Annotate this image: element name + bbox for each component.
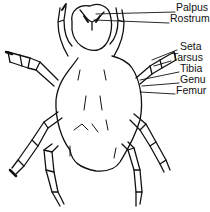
leg-fourth-right bbox=[122, 142, 142, 206]
leg-fourth-left bbox=[44, 144, 64, 206]
leg-third-right bbox=[130, 114, 170, 172]
leg-front-right bbox=[110, 8, 124, 56]
leg-front-left bbox=[58, 6, 72, 56]
leg-third-left bbox=[12, 112, 62, 174]
label-femur: Femur bbox=[176, 85, 206, 96]
leg-second-left bbox=[8, 52, 58, 86]
label-rostrum: Rostrum bbox=[170, 13, 210, 24]
mite-illustration bbox=[0, 0, 210, 212]
label-leaders bbox=[94, 12, 179, 94]
